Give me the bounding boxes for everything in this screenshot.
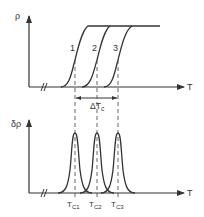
tc2-label: TC2 <box>89 200 102 210</box>
curve-label-3: 3 <box>113 43 118 53</box>
curve-1 <box>61 26 160 87</box>
curve-label-2: 2 <box>92 43 97 53</box>
peak-1 <box>58 133 92 193</box>
peak-3 <box>101 133 135 193</box>
bottom-panel: δρ T TC1 TC2 TC3 <box>11 119 193 210</box>
curve-label-1: 1 <box>70 43 75 53</box>
top-x-label: T <box>187 82 193 92</box>
tc3-label: TC3 <box>111 200 124 210</box>
tc1-label: TC1 <box>67 200 80 210</box>
curve-2 <box>82 26 110 87</box>
peak-2 <box>80 133 114 193</box>
bottom-x-label: T <box>187 188 193 198</box>
top-panel: ρ T 1 2 3 ΔTc <box>15 11 193 112</box>
bottom-y-label: δρ <box>11 119 21 129</box>
transition-diagram: ρ T 1 2 3 ΔTc δρ T TC1 TC2 TC3 <box>0 0 204 217</box>
top-y-label: ρ <box>15 11 20 21</box>
